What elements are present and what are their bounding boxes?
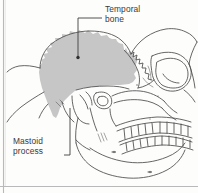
- mastoid-process-leader: [64, 108, 70, 155]
- label-mastoid-process: Mastoid process: [13, 136, 43, 156]
- skull-anatomy-figure: Temporal bone Mastoid process: [0, 0, 198, 193]
- label-temporal-bone-line2: bone: [105, 14, 140, 24]
- label-mastoid-process-line2: process: [13, 146, 43, 156]
- label-temporal-bone: Temporal bone: [105, 4, 140, 24]
- temporal-bone-region: [39, 30, 137, 118]
- skull-illustration: [0, 0, 198, 193]
- label-mastoid-process-line1: Mastoid: [13, 136, 43, 146]
- label-temporal-bone-line1: Temporal: [105, 4, 140, 14]
- callout-dot-icon: [76, 56, 79, 59]
